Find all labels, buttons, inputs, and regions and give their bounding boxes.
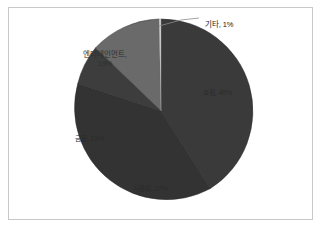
pie-label-finance: 금융, 13%: [75, 135, 104, 144]
pie-chart-plot-area: 엔터테인먼트, 19% 쇼핑, 40% 식음료, 27% 금융, 13% 기타,…: [9, 8, 312, 219]
pie-label-entertainment-name: 엔터테인먼트,: [83, 50, 126, 59]
pie-label-etc: 기타, 1%: [205, 20, 233, 29]
pie-label-entertainment-percent: 19%: [65, 59, 145, 68]
pie-label-shopping: 쇼핑, 40%: [203, 89, 232, 98]
pie-label-entertainment: 엔터테인먼트, 19%: [65, 50, 145, 69]
chart-frame: 엔터테인먼트, 19% 쇼핑, 40% 식음료, 27% 금융, 13% 기타,…: [8, 7, 313, 220]
pie-label-food: 식음료, 27%: [133, 185, 168, 194]
